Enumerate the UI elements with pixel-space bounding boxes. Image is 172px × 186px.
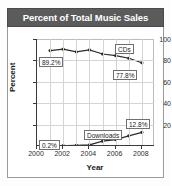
x-axis-tick-label: 2004 bbox=[81, 150, 97, 157]
annotation-series-label-cds: CDs bbox=[115, 44, 134, 54]
x-axis-tick-label: 2000 bbox=[28, 150, 44, 157]
annotation-series-label-downloads: Downloads bbox=[84, 130, 122, 140]
annotation-cds-2001: 89.2% bbox=[39, 57, 63, 67]
grid-line-horizontal bbox=[37, 103, 154, 104]
x-axis-tick-mark bbox=[115, 146, 116, 149]
x-axis-tick-label: 2006 bbox=[107, 150, 123, 157]
annotation-downloads-2008: 12.8% bbox=[126, 119, 150, 129]
annotation-cds-2008: 77.8% bbox=[113, 70, 137, 80]
annotation-downloads-2001: 0.2% bbox=[39, 140, 60, 150]
y-axis-title: Percent bbox=[8, 63, 17, 92]
x-axis-tick-mark bbox=[62, 146, 63, 149]
grid-line-vertical bbox=[129, 39, 130, 145]
grid-line-vertical bbox=[63, 39, 64, 145]
chart-title-banner: Percent of Total Music Sales bbox=[7, 8, 164, 27]
x-axis-tick-mark bbox=[36, 146, 37, 149]
x-axis-tick-mark bbox=[88, 146, 89, 149]
grid-line-vertical bbox=[142, 39, 143, 145]
grid-line-vertical bbox=[50, 39, 51, 145]
grid-line-top bbox=[37, 39, 154, 40]
x-axis-tick-mark bbox=[141, 146, 142, 149]
grid-line-right bbox=[153, 39, 154, 145]
x-axis-tick-label: 2008 bbox=[133, 150, 149, 157]
grid-line-horizontal bbox=[37, 82, 154, 83]
x-axis-tick-label: 2002 bbox=[54, 150, 70, 157]
x-axis-title: Year bbox=[36, 163, 154, 172]
page-title: Percent of Total Music Sales bbox=[23, 12, 148, 23]
grid-line-vertical bbox=[76, 39, 77, 145]
chart-figure: Percent of Total Music Sales 100 80 60 4… bbox=[0, 0, 171, 186]
